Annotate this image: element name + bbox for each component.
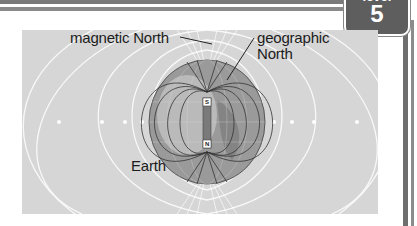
right-border-line-secondary [411, 20, 414, 226]
top-border-line [0, 0, 345, 4]
magnet-north-pole-label: N [203, 140, 211, 148]
geographic-north-label-line1: geographic [257, 30, 329, 46]
right-border-line [403, 30, 408, 226]
magnetic-north-label: magnetic North [70, 30, 169, 46]
magnet-south-pole-label: S [203, 98, 211, 106]
field-illustration [22, 30, 378, 214]
earth-label: Earth [131, 157, 166, 174]
level-badge-number: 5 [346, 2, 408, 26]
geographic-north-label-line2: North [257, 45, 293, 62]
top-border-line-secondary [0, 7, 345, 11]
magnetic-field-diagram: S N magnetic North geographic North Eart… [22, 30, 378, 214]
